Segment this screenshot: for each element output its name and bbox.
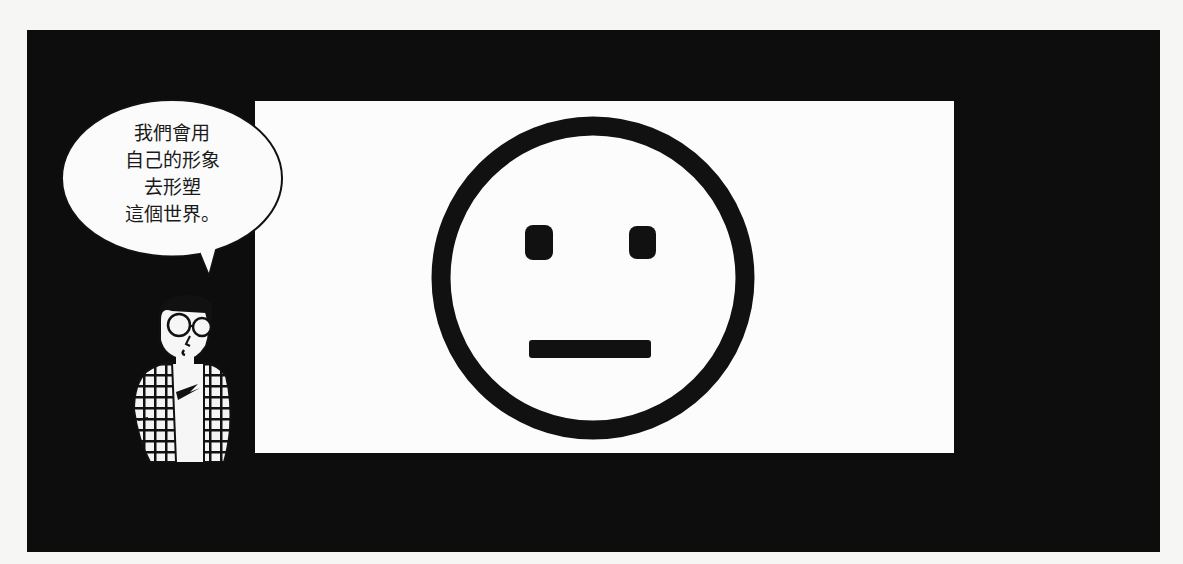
shirt xyxy=(172,364,206,462)
jacket-left xyxy=(134,362,176,462)
glasses-left-icon xyxy=(168,314,190,336)
jacket-right xyxy=(204,362,231,462)
narrator-character xyxy=(0,0,1183,564)
glasses-right-icon xyxy=(193,318,211,336)
